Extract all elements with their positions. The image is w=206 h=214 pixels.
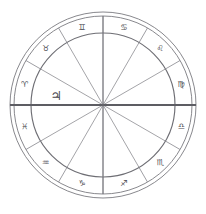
- house-cusp-line: [67, 105, 103, 167]
- chart-axis-group: [10, 16, 196, 194]
- zodiac-glyph-libra: ♎: [178, 121, 185, 131]
- house-cusp-line: [67, 43, 103, 105]
- sign-divider: [139, 167, 148, 182]
- zodiac-glyph-taurus: ♉: [42, 43, 49, 53]
- planet-glyph-jupiter: ♃: [50, 88, 61, 103]
- zodiac-glyph-pisces: ♓: [21, 121, 28, 131]
- planet-glyph-group: ♃: [50, 88, 61, 103]
- zodiac-glyph-aries: ♈: [21, 79, 29, 89]
- zodiac-glyph-sagittarius: ♐: [120, 178, 127, 188]
- house-cusp-line: [41, 105, 103, 141]
- sign-divider: [26, 141, 41, 150]
- sign-divider: [59, 28, 68, 43]
- zodiac-glyph-scorpio: ♏: [157, 157, 165, 167]
- sign-divider: [59, 167, 68, 182]
- house-cusp-line: [103, 105, 139, 167]
- house-cusp-line: [103, 69, 165, 105]
- chart-canvas: ♓♈♉♊♋♌♍♎♏♐♑♒ ♃: [0, 0, 206, 214]
- zodiac-glyph-virgo: ♍: [178, 79, 185, 89]
- sign-divider: [165, 141, 180, 150]
- zodiac-glyph-leo: ♌: [157, 43, 164, 53]
- house-cusp-line: [103, 43, 139, 105]
- zodiac-glyph-aquarius: ♒: [42, 157, 49, 167]
- astrology-chart-wheel: ♓♈♉♊♋♌♍♎♏♐♑♒ ♃: [0, 0, 206, 214]
- sign-divider: [139, 28, 148, 43]
- zodiac-glyph-gemini: ♊: [78, 22, 85, 32]
- zodiac-glyph-capricorn: ♑: [78, 178, 85, 188]
- zodiac-glyph-cancer: ♋: [120, 22, 127, 32]
- sign-divider: [165, 61, 180, 70]
- house-cusp-line: [103, 105, 165, 141]
- sign-divider: [26, 61, 41, 70]
